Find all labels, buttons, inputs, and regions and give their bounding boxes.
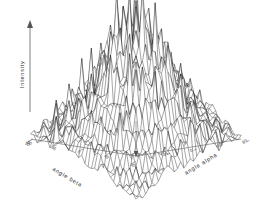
intensity-axis-label: Intensity — [19, 60, 25, 88]
figure-container: Intensity angle beta angle alpha 9045045… — [0, 0, 268, 201]
surface-plot-svg: Intensity angle beta angle alpha 9045045… — [0, 0, 268, 201]
